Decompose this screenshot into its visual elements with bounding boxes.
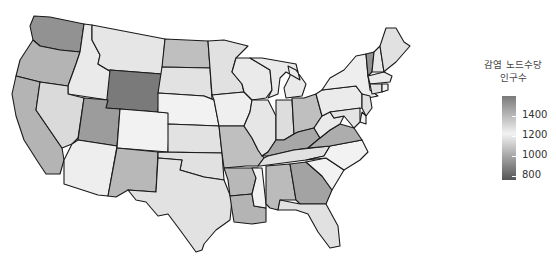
state-ks xyxy=(168,124,222,153)
state-nm xyxy=(108,148,158,197)
state-ct xyxy=(370,84,382,94)
legend-tick-label: 1400 xyxy=(522,109,547,120)
us-choropleth-map xyxy=(0,0,470,262)
state-ms xyxy=(252,168,266,208)
legend-tickmark xyxy=(512,136,516,137)
state-in xyxy=(276,100,294,140)
state-me xyxy=(380,28,410,72)
legend-tick-label: 1000 xyxy=(522,149,547,160)
legend-tick-label: 800 xyxy=(522,169,541,180)
legend-title-line1: 감염 노드수당 xyxy=(470,58,556,71)
legend-tickmark xyxy=(512,176,516,177)
state-wy xyxy=(106,70,162,112)
legend-color-bar xyxy=(502,96,516,180)
state-ri xyxy=(382,84,388,92)
state-nj xyxy=(362,94,372,116)
legend-tick-label: 1200 xyxy=(522,129,547,140)
legend-tickmark xyxy=(512,116,516,117)
legend-tickmark xyxy=(512,156,516,157)
state-co xyxy=(117,109,170,152)
legend-title-line2: 인구수 xyxy=(470,71,556,84)
state-fl xyxy=(278,200,340,248)
state-ma xyxy=(368,72,392,84)
legend-title: 감염 노드수당 인구수 xyxy=(470,58,556,84)
state-mt xyxy=(92,25,165,74)
state-nd xyxy=(162,39,210,68)
